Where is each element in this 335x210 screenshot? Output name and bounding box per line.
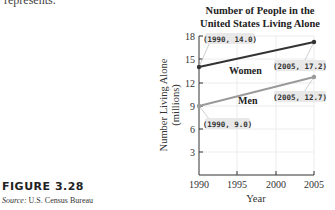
women-series-label: Women xyxy=(229,65,262,76)
men-series-label: Men xyxy=(238,95,258,106)
callout-women-2005: (2005, 17.2) xyxy=(273,62,327,71)
y-tick-3: 3 xyxy=(190,147,195,158)
source-prefix: Source: xyxy=(2,196,27,205)
x-tick-1995: 1995 xyxy=(227,179,247,190)
men-point-1990 xyxy=(197,104,201,108)
men-point-2005 xyxy=(312,75,316,79)
source-note: Source: U.S. Census Bureau xyxy=(2,196,93,205)
y-tick-9: 9 xyxy=(190,101,195,112)
y-axis-units: (millions) xyxy=(170,84,182,126)
x-tick-2000: 2000 xyxy=(266,179,286,190)
women-point-1990 xyxy=(197,65,201,69)
callout-women-1990: (1990, 14.0) xyxy=(203,35,257,44)
x-axis-title: Year xyxy=(246,193,266,204)
x-tick-2005: 2005 xyxy=(304,179,324,190)
source-text: U.S. Census Bureau xyxy=(27,196,93,205)
y-tick-12: 12 xyxy=(185,78,195,89)
y-tick-6: 6 xyxy=(190,124,195,135)
callout-men-1990: (1990, 9.0) xyxy=(203,120,253,129)
figure-label: FIGURE 3.28 xyxy=(2,180,84,193)
y-tick-18: 18 xyxy=(185,31,195,42)
women-point-2005 xyxy=(312,40,316,44)
line-chart: 18 15 12 9 6 3 1990 1995 2000 2005 Year … xyxy=(0,0,335,210)
callout-men-2005: (2005, 12.7) xyxy=(273,93,327,102)
y-tick-15: 15 xyxy=(185,54,195,65)
y-axis-title: Number Living Alone xyxy=(158,58,169,151)
x-tick-1990: 1990 xyxy=(189,179,209,190)
